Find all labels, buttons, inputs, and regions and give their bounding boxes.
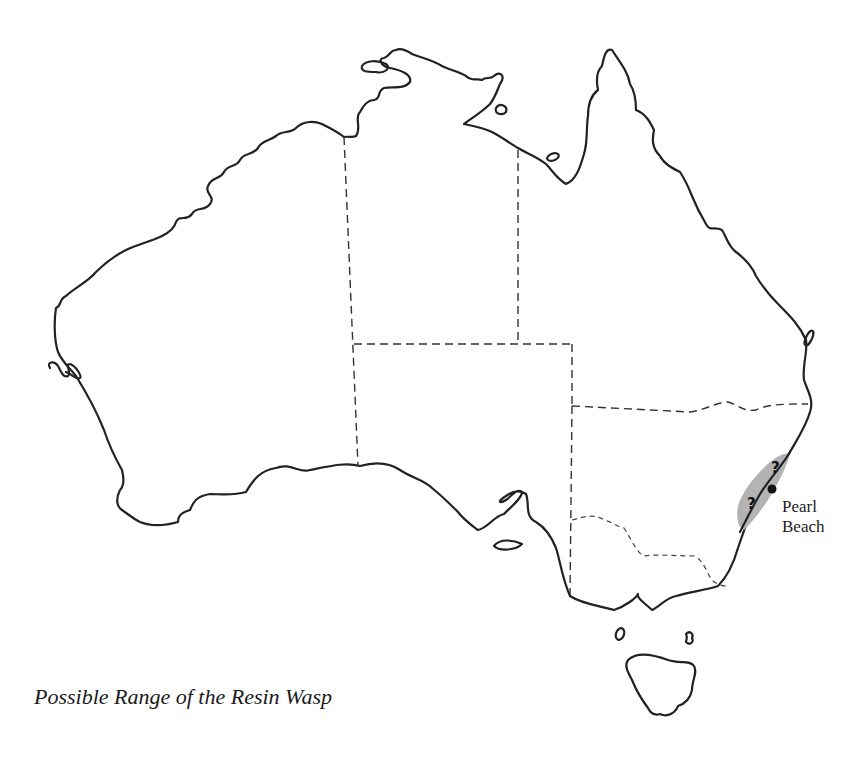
pearl-beach-dot: [768, 485, 777, 494]
mornington-island: [546, 152, 560, 163]
qld-nsw-border: [572, 402, 808, 412]
pearl-beach-label-line1: Pearl: [782, 497, 817, 516]
australia-map: ? ? Pearl Beach: [0, 0, 868, 768]
flinders-island: [686, 632, 693, 643]
wa-border: [344, 137, 358, 466]
map-caption: Possible Range of the Resin Wasp: [34, 684, 332, 710]
range-question-mark-north: ?: [771, 459, 780, 477]
kangaroo-island: [494, 541, 522, 550]
groote-eylandt-island: [496, 105, 507, 114]
king-island: [614, 627, 626, 641]
pearl-beach-label-line2: Beach: [782, 517, 825, 536]
mainland-coastline: [55, 49, 812, 610]
tasmania: [626, 655, 695, 716]
sa-nsw-vic-border: [570, 406, 572, 598]
nsw-vic-border: [572, 516, 726, 586]
range-question-mark-south: ?: [747, 495, 756, 513]
fraser-island: [803, 329, 815, 346]
